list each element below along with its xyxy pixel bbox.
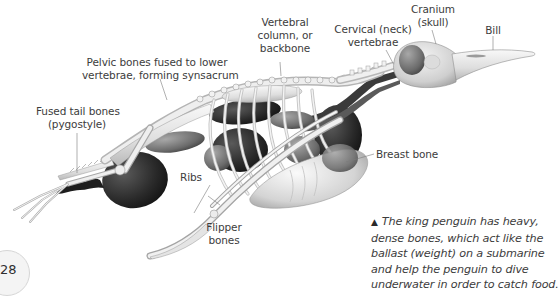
bill [452, 50, 535, 80]
caption-line-3: ballast (weight) on a submarine [371, 246, 543, 262]
label-bill: Bill [478, 24, 508, 37]
label-vertebral-column: Vertebral column, or backbone [254, 16, 316, 55]
triangle-marker-icon: ▲ [371, 217, 378, 227]
caption-line-2: dense bones, which act like the [371, 231, 543, 247]
caption-line-5: underwater in order to catch food. [371, 277, 543, 293]
caption: ▲The king penguin has heavy, dense bones… [371, 214, 543, 293]
label-cranium: Cranium (skull) [400, 3, 466, 29]
caption-line-4: and help the penguin to dive [371, 262, 543, 278]
label-breast-bone: Breast bone [376, 148, 440, 161]
label-pelvic-synsacrum: Pelvic bones fused to lower vertebrae, f… [82, 56, 232, 82]
page-number: 28 [0, 262, 17, 277]
label-ribs: Ribs [178, 171, 204, 184]
label-pygostyle: Fused tail bones (pygostyle) [36, 105, 118, 131]
caption-line-1: ▲The king penguin has heavy, [371, 214, 543, 231]
label-flipper-bones: Flipper bones [204, 221, 244, 247]
